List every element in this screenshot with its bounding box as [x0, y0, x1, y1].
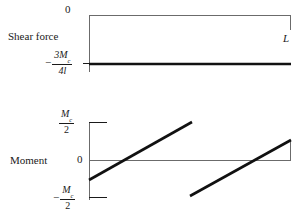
shear-force-panel [83, 15, 291, 72]
moment-bottom-value-sign: − [53, 191, 59, 204]
moment-bottom-numerator: Mc [60, 185, 75, 199]
moment-top-value-label: Mc 2 [58, 109, 74, 135]
shear-value-sign: − [45, 56, 51, 69]
shear-value-fraction: 3Mc 4l [52, 50, 72, 76]
moment-zero-label: 0 [77, 154, 83, 165]
shear-zero-label: 0 [65, 4, 71, 15]
shear-value-denominator: 4l [56, 65, 68, 76]
beam-diagram-figure: Shear force 0 L − 3Mc 4l Moment 0 Mc 2 −… [0, 0, 305, 223]
moment-curve-left-segment [89, 122, 192, 180]
moment-top-numerator-subscript: c [69, 116, 72, 123]
shear-value-label: − 3Mc 4l [45, 50, 72, 76]
shear-force-row-label: Shear force [8, 31, 58, 42]
moment-row-label: Moment [10, 155, 47, 166]
moment-bottom-numerator-text: M [62, 184, 70, 195]
moment-curve-right-segment [190, 140, 291, 196]
moment-top-denominator: 2 [62, 124, 71, 135]
moment-bottom-fraction: Mc 2 [60, 185, 75, 211]
moment-panel [89, 122, 291, 200]
shear-span-length-label: L [283, 33, 289, 44]
moment-top-numerator: Mc [59, 109, 74, 123]
shear-value-numerator: 3Mc [52, 50, 72, 64]
moment-bottom-value-label: − Mc 2 [53, 185, 75, 211]
shear-value-numerator-text: 3M [54, 49, 67, 60]
moment-bottom-denominator: 2 [63, 200, 72, 211]
moment-top-fraction: Mc 2 [59, 109, 74, 135]
